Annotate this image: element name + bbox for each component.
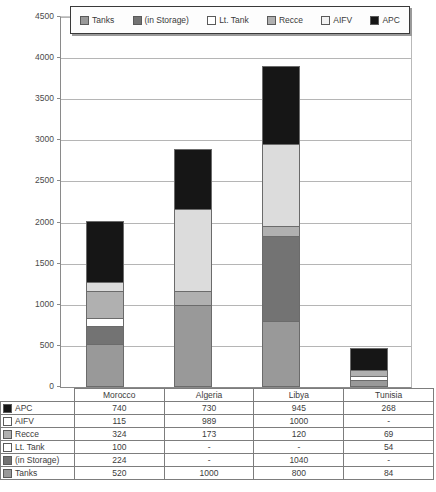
bar-segment-recce[interactable] [174,291,212,305]
table-cell: 268 [344,402,434,415]
gridline [61,58,411,59]
legend-item-tanks[interactable]: Tanks [80,15,114,25]
y-axis-tick-label: 2500 [0,176,54,184]
table-cell: 224 [74,454,164,467]
table-cell: 69 [344,428,434,441]
table-row: Lt. Tank100--54 [1,441,434,454]
table-row-label-aifv: AIFV [1,415,75,428]
table-cell: - [164,441,254,454]
table-cell: 324 [74,428,164,441]
table-cell: 100 [74,441,164,454]
bar-algeria[interactable] [174,149,212,387]
bar-segment-apc[interactable] [262,66,300,144]
legend-swatch-icon [133,16,142,25]
bar-segment-tanks[interactable] [350,380,388,387]
series-name: APC [15,403,32,413]
series-swatch-icon [3,417,12,426]
legend-item-label: (in Storage) [145,15,189,25]
series-swatch-icon [3,404,12,413]
bar-segment-aifv[interactable] [86,282,124,291]
table-row-label-lttank: Lt. Tank [1,441,75,454]
legend-swatch-icon [321,16,330,25]
bar-segment-apc[interactable] [86,221,124,282]
bar-segment-instorage[interactable] [86,326,124,344]
series-swatch-icon [3,469,12,478]
legend-item-recce[interactable]: Recce [267,15,303,25]
chart-container: 450040003500300025002000150010005000 Tan… [0,0,436,396]
legend-item-lttank[interactable]: Lt. Tank [207,15,249,25]
table-row: AIFV1159891000- [1,415,434,428]
table-cell: - [164,454,254,467]
legend-item-label: Tanks [92,15,114,25]
series-name: Lt. Tank [15,442,45,452]
bar-segment-lttank[interactable] [86,318,124,326]
series-name: AIFV [15,416,34,426]
legend-item-label: AIFV [333,15,352,25]
bar-segment-instorage[interactable] [262,236,300,322]
series-swatch-icon [3,443,12,452]
table-column-header-morocco: Morocco [74,389,164,402]
legend-swatch-icon [207,16,216,25]
bar-segment-tanks[interactable] [86,344,124,387]
table-row-label-instorage: (in Storage) [1,454,75,467]
y-axis-tick-label: 3000 [0,135,54,143]
legend-item-label: APC [382,15,399,25]
bar-segment-aifv[interactable] [262,144,300,226]
table-cell: 173 [164,428,254,441]
table-cell: 1000 [254,415,344,428]
table-column-header-algeria: Algeria [164,389,254,402]
series-swatch-icon [3,430,12,439]
table-corner-cell [1,389,75,402]
table-head: MoroccoAlgeriaLibyaTunisia [1,389,434,402]
bar-segment-aifv[interactable] [174,209,212,290]
table-row: Recce32417312069 [1,428,434,441]
bar-tunisia[interactable] [350,348,388,387]
table-row: APC740730945268 [1,402,434,415]
legend-swatch-icon [267,16,276,25]
table-cell: 520 [74,467,164,480]
series-swatch-icon [3,456,12,465]
bar-segment-apc[interactable] [174,149,212,209]
table-cell: 84 [344,467,434,480]
bar-segment-apc[interactable] [350,348,388,370]
series-name: (in Storage) [15,455,59,465]
bar-segment-recce[interactable] [86,291,124,318]
series-name: Recce [15,429,39,439]
y-axis-tick-label: 3500 [0,94,54,102]
bar-libya[interactable] [262,66,300,387]
y-axis-tick-label: 1000 [0,300,54,308]
table-cell: - [254,441,344,454]
bar-morocco[interactable] [86,221,124,387]
legend-item-apc[interactable]: APC [370,15,399,25]
bar-segment-tanks[interactable] [174,305,212,387]
series-name: Tanks [15,468,37,478]
legend-swatch-icon [80,16,89,25]
table-cell: 1000 [164,467,254,480]
legend-item-label: Recce [279,15,303,25]
y-axis-tick-label: 4500 [0,12,54,20]
table-row-label-apc: APC [1,402,75,415]
gridline [61,181,411,182]
legend-item-label: Lt. Tank [219,15,249,25]
table-cell: 945 [254,402,344,415]
table-cell: 989 [164,415,254,428]
table-row: (in Storage)224-1040- [1,454,434,467]
legend-item-aifv[interactable]: AIFV [321,15,352,25]
legend-item-instorage[interactable]: (in Storage) [133,15,189,25]
bar-segment-tanks[interactable] [262,321,300,387]
data-table: MoroccoAlgeriaLibyaTunisia APC7407309452… [0,388,434,480]
gridline [61,140,411,141]
table-cell: 800 [254,467,344,480]
y-axis-tick-label: 500 [0,341,54,349]
table-cell: 740 [74,402,164,415]
table-body: APC740730945268AIFV1159891000-Recce32417… [1,402,434,480]
table-column-header-tunisia: Tunisia [344,389,434,402]
plot-area [60,16,412,388]
table-row-label-tanks: Tanks [1,467,75,480]
gridline [61,99,411,100]
table-header-row: MoroccoAlgeriaLibyaTunisia [1,389,434,402]
table-cell: 115 [74,415,164,428]
legend-swatch-icon [370,16,379,25]
bar-segment-recce[interactable] [262,226,300,236]
table-cell: 120 [254,428,344,441]
